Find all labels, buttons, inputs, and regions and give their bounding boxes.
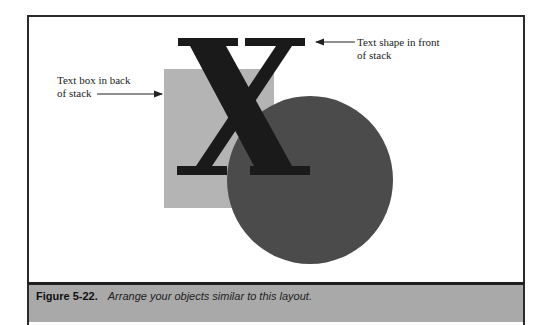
back-annotation: Text box in back of stack [57,74,130,100]
caption-band: Figure 5-22.Arrange your objects similar… [27,282,525,322]
caption-text: Arrange your objects similar to this lay… [108,290,312,302]
caption-label: Figure 5-22. [36,290,98,302]
front-annotation: Text shape in front of stack [357,36,440,62]
figure-caption: Figure 5-22.Arrange your objects similar… [36,290,312,302]
